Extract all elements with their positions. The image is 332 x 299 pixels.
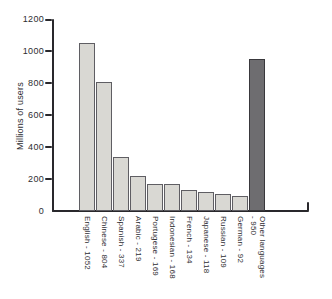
bar-arabic: [130, 176, 146, 211]
x-label-cell: French - 134: [181, 216, 198, 264]
bar-indonesian: [164, 184, 180, 211]
y-tick-label: 800: [6, 78, 44, 88]
y-tick-mark: [45, 114, 52, 116]
x-axis-label: Indonesian - 168: [168, 216, 177, 279]
bar-other-languages: [249, 59, 265, 211]
y-tick-mark: [45, 50, 52, 52]
x-label-cell: Arabic - 219: [130, 216, 147, 262]
x-axis-label: German - 92: [236, 216, 245, 263]
x-axis-label: English - 1052: [83, 216, 92, 270]
bar-german: [232, 196, 248, 211]
x-axis-label: French - 134: [185, 216, 194, 264]
x-axis-label: Chinese - 804: [100, 216, 109, 268]
y-tick-label: 600: [6, 110, 44, 120]
x-axis-labels: English - 1052Chinese - 804Spanish - 337…: [79, 216, 266, 298]
bar-russian: [215, 194, 231, 211]
x-label-cell: Chinese - 804: [96, 216, 113, 268]
x-axis-label: Russian - 109: [219, 216, 228, 268]
x-label-cell: Russian - 109: [215, 216, 232, 268]
bar-chart: Millions of users 020040060080010001200 …: [0, 0, 332, 299]
bar-portugese: [147, 184, 163, 211]
x-label-cell: German - 92: [232, 216, 249, 263]
y-tick-label: 0: [6, 206, 44, 216]
x-axis-label: Japanese - 118: [202, 216, 211, 273]
bar-french: [181, 190, 197, 211]
y-tick-mark: [45, 19, 52, 21]
y-tick-label: 400: [6, 142, 44, 152]
y-tick-label: 200: [6, 174, 44, 184]
y-tick-mark: [45, 178, 52, 180]
y-tick-mark: [45, 146, 52, 148]
y-tick-label: 1000: [6, 46, 44, 56]
x-label-cell: Portugese - 169: [147, 216, 164, 276]
x-label-cell: English - 1052: [79, 216, 96, 270]
x-label-cell: Indonesian - 168: [164, 216, 181, 279]
x-label-cell: Japanese - 118: [198, 216, 215, 273]
x-axis-label: Other languages - 950: [249, 216, 267, 278]
bar-spanish: [113, 157, 129, 211]
x-axis-label: Spanish - 337: [117, 216, 126, 268]
y-tick-mark: [45, 82, 52, 84]
bar-chinese: [96, 82, 112, 211]
bar-english: [79, 43, 95, 211]
x-axis-label: Arabic - 219: [134, 216, 143, 262]
x-axis-end-hook: [307, 202, 309, 211]
x-label-cell: Other languages - 950: [249, 216, 266, 278]
bar-japanese: [198, 192, 214, 211]
x-axis-label: Portugese - 169: [151, 216, 160, 276]
y-axis-line: [52, 19, 54, 212]
x-label-cell: Spanish - 337: [113, 216, 130, 268]
y-tick-label: 1200: [6, 14, 44, 24]
